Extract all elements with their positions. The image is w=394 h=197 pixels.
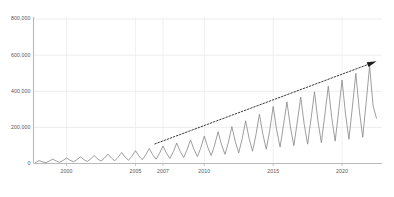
chart-axes: [34, 17, 383, 164]
chart-container: 0200,000400,000600,000800,000 2000200520…: [0, 0, 394, 197]
y-axis-tick-label: 400,000: [11, 89, 30, 94]
x-axis-tick-label: 2005: [129, 169, 141, 174]
x-axis-tick-label: 2000: [61, 169, 73, 174]
x-axis-tick-label: 2010: [198, 169, 210, 174]
x-gridlines: [67, 17, 342, 164]
y-axis-tick-label: 0: [28, 161, 31, 166]
trend-arrowhead-icon: [367, 61, 377, 67]
chart-plot-area: [0, 0, 394, 197]
x-axis-tick-label: 2020: [336, 169, 348, 174]
y-axis-tick-label: 600,000: [11, 53, 30, 58]
y-axis-tick-label: 800,000: [11, 16, 30, 21]
trend-arrow-line: [155, 63, 373, 144]
y-axis-tick-label: 200,000: [11, 125, 30, 130]
y-gridlines: [34, 19, 383, 127]
x-axis-tick-label: 2015: [267, 169, 279, 174]
x-axis-tick-label: 2007: [157, 169, 169, 174]
